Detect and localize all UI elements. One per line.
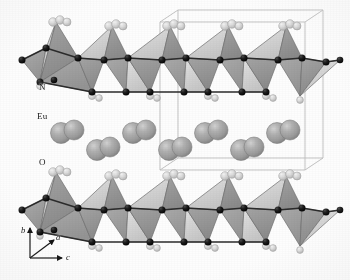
crystal-structure-figure: N Eu O b a c [0,0,350,280]
axes-legend [0,0,350,280]
label-nitrogen: N [39,82,46,92]
axis-label-b: b [21,225,25,235]
axis-label-a: a [56,232,60,242]
label-oxygen: O [39,157,46,167]
axis-label-c: c [66,252,70,262]
label-europium: Eu [37,111,47,121]
axis-arrow-a [30,240,54,258]
